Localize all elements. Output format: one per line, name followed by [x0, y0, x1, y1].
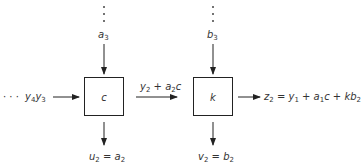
block-c: c	[84, 77, 124, 116]
vertical-ellipsis-icon	[212, 6, 216, 27]
label-z2: z2 = y1 + a1c + kb2	[264, 92, 361, 104]
vertical-ellipsis-icon	[103, 6, 107, 27]
label-a3: a3	[98, 30, 109, 42]
block-k: k	[193, 77, 233, 116]
block-c-label: c	[85, 91, 123, 102]
label-v2: v2 = b2	[198, 152, 234, 164]
label-b3: b3	[207, 30, 218, 42]
label-stream-dots: · · ·	[3, 92, 19, 102]
label-y4y3: y4y3	[25, 92, 46, 104]
label-y2-plus-a2c: y2 + a2c	[140, 82, 181, 94]
block-k-label: k	[194, 91, 232, 102]
label-u2: u2 = a2	[89, 152, 125, 164]
